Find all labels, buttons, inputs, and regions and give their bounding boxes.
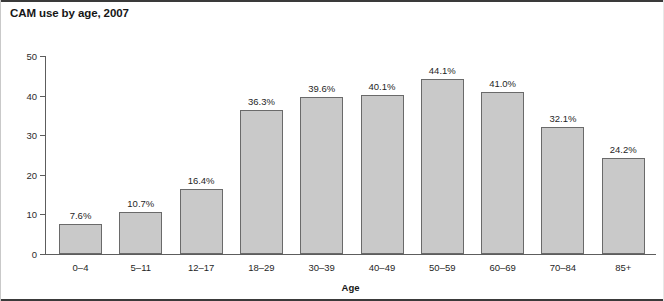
bar-value-label: 32.1%	[549, 113, 576, 124]
y-tick-mark	[40, 96, 45, 97]
x-category-label: 0–4	[73, 262, 89, 273]
x-category-label: 40–49	[369, 262, 395, 273]
bar[interactable]	[541, 127, 584, 254]
y-tick-mark	[40, 56, 45, 57]
bar[interactable]	[602, 158, 645, 254]
y-tick-label: 30	[26, 130, 37, 141]
x-category-label: 70–84	[550, 262, 576, 273]
bar-column[interactable]: 24.2%	[602, 56, 645, 254]
bar-value-label: 44.1%	[429, 65, 456, 76]
y-tick-mark	[40, 254, 45, 255]
x-axis-line	[45, 254, 656, 255]
x-category-label: 60–69	[489, 262, 515, 273]
y-tick-label: 50	[26, 51, 37, 62]
x-category-label: 30–39	[308, 262, 334, 273]
bar[interactable]	[300, 97, 343, 254]
y-tick-label: 40	[26, 90, 37, 101]
bar-column[interactable]: 32.1%	[541, 56, 584, 254]
bar-column[interactable]: 7.6%	[59, 56, 102, 254]
bar-column[interactable]: 16.4%	[180, 56, 223, 254]
x-category-label: 85+	[615, 262, 631, 273]
bar-column[interactable]: 41.0%	[481, 56, 524, 254]
x-category-label: 5–11	[131, 262, 151, 273]
chart-page: CAM use by age, 2007 01020304050 7.6%10.…	[0, 0, 664, 301]
y-tick-label: 10	[26, 209, 37, 220]
y-tick-mark	[40, 214, 45, 215]
y-axis-line	[45, 56, 46, 255]
bar-value-label: 39.6%	[308, 83, 335, 94]
y-tick-mark	[40, 135, 45, 136]
x-category-label: 50–59	[429, 262, 455, 273]
bar[interactable]	[421, 79, 464, 254]
bar-column[interactable]: 44.1%	[421, 56, 464, 254]
bar[interactable]	[180, 189, 223, 254]
bar-value-label: 40.1%	[369, 81, 396, 92]
y-tick-label: 0	[32, 249, 37, 260]
bar-value-label: 36.3%	[248, 96, 275, 107]
bar[interactable]	[240, 110, 283, 254]
bar[interactable]	[59, 224, 102, 254]
bar-value-label: 16.4%	[188, 175, 215, 186]
x-axis-title: Age	[342, 282, 360, 293]
bar[interactable]	[119, 212, 162, 254]
y-tick-label: 20	[26, 169, 37, 180]
bar[interactable]	[481, 92, 524, 254]
bar[interactable]	[361, 95, 404, 254]
chart-title: CAM use by age, 2007	[10, 7, 129, 19]
x-category-label: 18–29	[248, 262, 274, 273]
bar-column[interactable]: 36.3%	[240, 56, 283, 254]
bar-value-label: 10.7%	[127, 198, 154, 209]
y-tick-mark	[40, 175, 45, 176]
bar-value-label: 24.2%	[610, 144, 637, 155]
bar-column[interactable]: 40.1%	[361, 56, 404, 254]
bar-value-label: 41.0%	[489, 78, 516, 89]
plot-area: 01020304050 7.6%10.7%16.4%36.3%39.6%40.1…	[45, 56, 656, 255]
x-category-label: 12–17	[188, 262, 214, 273]
bar-column[interactable]: 10.7%	[119, 56, 162, 254]
top-frame-rule	[1, 0, 664, 2]
bar-value-label: 7.6%	[70, 210, 92, 221]
bar-column[interactable]: 39.6%	[300, 56, 343, 254]
